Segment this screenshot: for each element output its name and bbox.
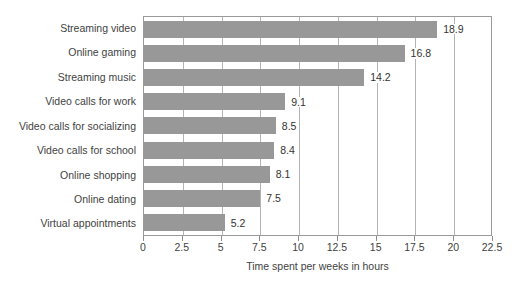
- category-row: Online dating: [0, 187, 140, 211]
- category-row: Video calls for school: [0, 138, 140, 162]
- bar-row: 5.2: [144, 211, 491, 235]
- bar-value-label: 5.2: [230, 218, 247, 229]
- category-label: Streaming video: [60, 23, 136, 34]
- bar: [144, 166, 270, 183]
- category-row: Video calls for socializing: [0, 114, 140, 138]
- bar-row: 16.8: [144, 41, 491, 65]
- category-row: Virtual appointments: [0, 212, 140, 236]
- bar-row: 8.5: [144, 114, 491, 138]
- bar-series: 18.916.814.29.18.58.48.17.55.2: [144, 17, 491, 235]
- category-axis: Streaming videoOnline gamingStreaming mu…: [0, 16, 140, 236]
- category-row: Online shopping: [0, 163, 140, 187]
- category-label: Streaming music: [58, 72, 136, 83]
- category-row: Video calls for work: [0, 89, 140, 113]
- x-tick-label: 15: [370, 242, 382, 253]
- x-tick-label: 10: [292, 242, 304, 253]
- bar-row: 8.4: [144, 138, 491, 162]
- bar-value-label: 18.9: [442, 24, 464, 35]
- x-tick-label: 0: [140, 242, 146, 253]
- plot-area: 18.916.814.29.18.58.48.17.55.2: [143, 16, 492, 236]
- bar: [144, 142, 274, 159]
- x-tick-label: 17.5: [404, 242, 424, 253]
- category-label: Video calls for school: [37, 145, 136, 156]
- category-label: Online shopping: [60, 170, 136, 181]
- chart-title: [0, 0, 514, 4]
- x-axis-title: Time spent per weeks in hours: [143, 260, 492, 272]
- bar-row: 8.1: [144, 162, 491, 186]
- x-tick-label: 5: [218, 242, 224, 253]
- bar-row: 9.1: [144, 90, 491, 114]
- bar: [144, 69, 364, 86]
- bar: [144, 214, 225, 231]
- bar: [144, 45, 405, 62]
- category-row: Streaming music: [0, 65, 140, 89]
- bar-value-label: 14.2: [369, 72, 391, 83]
- bar-value-label: 8.1: [275, 169, 292, 180]
- x-tick-label: 12.5: [327, 242, 347, 253]
- bar-chart-figure: Streaming videoOnline gamingStreaming mu…: [0, 0, 514, 281]
- bar: [144, 117, 276, 134]
- x-axis: 02.557.51012.51517.52022.5: [143, 236, 492, 260]
- bar-row: 14.2: [144, 65, 491, 89]
- bar-row: 7.5: [144, 187, 491, 211]
- category-label: Virtual appointments: [40, 218, 136, 229]
- bar-value-label: 8.5: [281, 121, 298, 132]
- category-row: Online gaming: [0, 40, 140, 64]
- category-label: Online dating: [74, 194, 136, 205]
- x-tick-label: 20: [447, 242, 459, 253]
- category-label: Video calls for socializing: [19, 121, 136, 132]
- category-label: Video calls for work: [45, 96, 136, 107]
- bar-row: 18.9: [144, 17, 491, 41]
- x-tick-label: 22.5: [482, 242, 502, 253]
- bar-value-label: 9.1: [290, 97, 307, 108]
- bar-value-label: 7.5: [265, 193, 282, 204]
- category-row: Streaming video: [0, 16, 140, 40]
- bar: [144, 93, 285, 110]
- bar-value-label: 16.8: [410, 48, 432, 59]
- category-label: Online gaming: [68, 47, 136, 58]
- x-tick-label: 2.5: [174, 242, 189, 253]
- bar: [144, 190, 260, 207]
- bar-value-label: 8.4: [279, 145, 296, 156]
- bar: [144, 21, 437, 38]
- x-tick-label: 7.5: [252, 242, 267, 253]
